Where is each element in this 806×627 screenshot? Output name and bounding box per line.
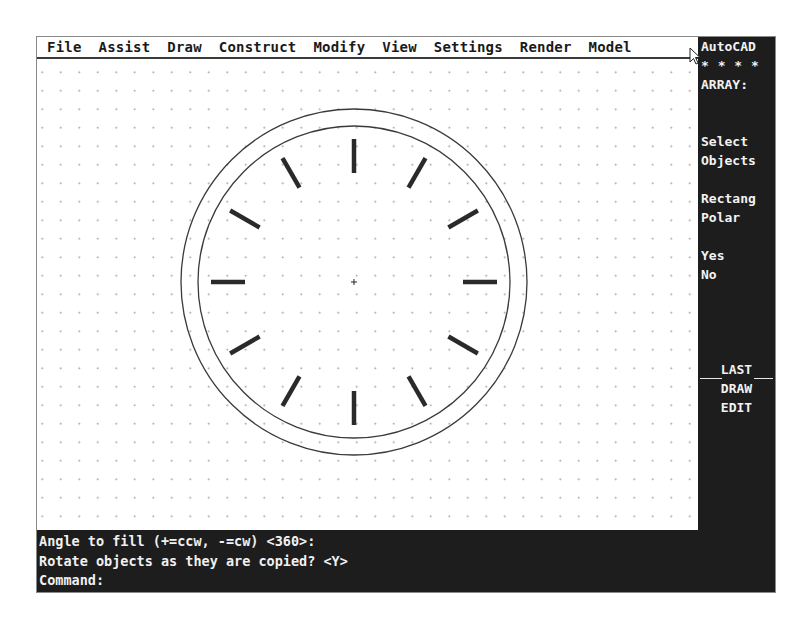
command-history-line-2: Rotate objects as they are copied? <Y> xyxy=(39,553,348,569)
menu-settings[interactable]: Settings xyxy=(424,39,503,55)
menu-modify[interactable]: Modify xyxy=(303,39,365,55)
tick-mark[interactable] xyxy=(230,337,259,354)
menu-render[interactable]: Render xyxy=(510,39,572,55)
tick-mark[interactable] xyxy=(283,376,300,405)
side-item-draw[interactable]: DRAW xyxy=(698,381,775,396)
menu-view[interactable]: View xyxy=(372,39,417,55)
tick-mark[interactable] xyxy=(409,376,426,405)
menu-file[interactable]: File xyxy=(37,39,82,55)
side-item-edit[interactable]: EDIT xyxy=(698,400,775,415)
side-screen-menu: AutoCAD * * * * ARRAY: Select Objects Re… xyxy=(698,37,775,530)
tick-mark[interactable] xyxy=(230,211,259,228)
side-item-objects[interactable]: Objects xyxy=(701,153,756,168)
menu-construct[interactable]: Construct xyxy=(209,39,297,55)
tick-mark[interactable] xyxy=(448,211,477,228)
tick-mark[interactable] xyxy=(283,158,300,187)
menu-draw[interactable]: Draw xyxy=(157,39,202,55)
side-item-rectang[interactable]: Rectang xyxy=(701,191,756,206)
side-item-no[interactable]: No xyxy=(701,267,717,282)
side-item-select[interactable]: Select xyxy=(701,134,748,149)
menu-assist[interactable]: Assist xyxy=(89,39,151,55)
side-menu-command: ARRAY: xyxy=(701,77,748,92)
drawing-geometry xyxy=(37,59,698,530)
side-item-yes[interactable]: Yes xyxy=(701,248,724,263)
menu-model[interactable]: Model xyxy=(579,39,632,55)
tick-mark[interactable] xyxy=(409,158,426,187)
command-history-line-1: Angle to fill (+=ccw, -=cw) <360>: xyxy=(39,533,315,549)
side-menu-stars[interactable]: * * * * xyxy=(701,58,759,73)
side-menu-title[interactable]: AutoCAD xyxy=(701,39,756,54)
command-line-area[interactable]: Angle to fill (+=ccw, -=cw) <360>: Rotat… xyxy=(37,530,775,592)
mouse-pointer-icon xyxy=(689,47,703,67)
command-prompt[interactable]: Command: xyxy=(39,572,104,588)
drawing-canvas[interactable] xyxy=(37,59,698,530)
side-item-polar[interactable]: Polar xyxy=(701,210,740,225)
menu-bar: File Assist Draw Construct Modify View S… xyxy=(37,37,698,59)
tick-mark[interactable] xyxy=(448,337,477,354)
crosshair-icon xyxy=(351,279,357,285)
side-item-last[interactable]: LAST xyxy=(698,362,775,377)
